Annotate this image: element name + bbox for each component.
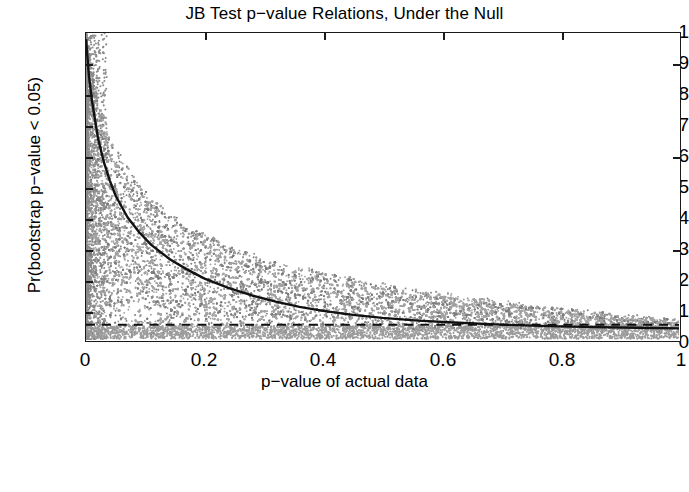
panel-1-top-tick-0_4 — [324, 33, 326, 40]
panel-1-left-tick-0_7 — [86, 126, 93, 128]
panel-1-xtick-0_8: 0.8 — [527, 350, 597, 369]
panel-1-xtick-1: 1 — [646, 350, 689, 369]
panel-alternative-scatter: Scatterplot under Alternative λ = 6, Lin… — [0, 404, 689, 492]
mean-relation-curve — [86, 39, 679, 328]
panel-1-top-tick-0_8 — [562, 33, 564, 40]
panel-null-relations: JB Test p−value Relations, Under the Nul… — [0, 0, 689, 404]
panel-1-left-tick-0_5 — [86, 188, 93, 190]
matlab-figure: JB Test p−value Relations, Under the Nul… — [0, 0, 689, 492]
panel-1-left-tick-0_3 — [86, 250, 93, 252]
panel-1-title: JB Test p−value Relations, Under the Nul… — [0, 4, 689, 24]
panel-1-top-tick-0_6 — [443, 33, 445, 40]
panel-1-plot-area — [85, 32, 681, 342]
panel-1-left-tick-0_4 — [86, 219, 93, 221]
panel-1-y-axis-label: Pr(bootstrap p−value < 0.05) — [25, 55, 45, 315]
panel-1-right-tick-0_9 — [673, 64, 680, 66]
panel-1-xtick-0_2: 0.2 — [169, 350, 239, 369]
panel-1-left-tick-0_6 — [86, 157, 93, 159]
panel-1-xtick-0_4: 0.4 — [288, 350, 358, 369]
panel-1-left-tick-0_2 — [86, 281, 93, 283]
panel-1-x-axis-label: p−value of actual data — [0, 372, 689, 392]
panel-1-top-tick-0_2 — [205, 33, 207, 40]
panel-1-left-tick-0_8 — [86, 95, 93, 97]
panel-1-xtick-0_6: 0.6 — [408, 350, 478, 369]
panel-1-plot-svg — [86, 33, 679, 340]
scatter-points-null — [86, 33, 679, 340]
panel-1-right-tick-0_6 — [673, 157, 680, 159]
panel-1-right-tick-0_3 — [673, 250, 680, 252]
panel-1-xtick-0: 0 — [50, 350, 120, 369]
panel-1-left-tick-0_9 — [86, 64, 93, 66]
panel-1-left-tick-0_1 — [86, 312, 93, 314]
